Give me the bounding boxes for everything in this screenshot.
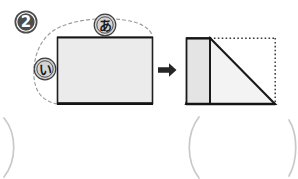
right-arrow-icon xyxy=(158,63,177,77)
label-a-marker: あ xyxy=(94,14,116,36)
right-arrow-shape xyxy=(158,63,177,77)
bracket-right-open xyxy=(189,117,199,178)
label-a-text: あ xyxy=(99,18,112,33)
source-rectangle xyxy=(57,37,153,103)
label-i-marker: い xyxy=(34,58,56,80)
answer-brackets xyxy=(4,117,296,178)
diagram-svg: 2 あ い xyxy=(0,0,298,179)
bracket-left-close xyxy=(4,118,14,177)
badge-number-label: 2 xyxy=(21,13,31,31)
label-i-text: い xyxy=(39,62,52,77)
worksheet-canvas: 2 あ い xyxy=(0,0,298,179)
source-rectangle-body xyxy=(58,38,153,104)
bracket-right-close xyxy=(289,120,296,176)
problem-number-badge: 2 xyxy=(15,11,38,34)
left-strip-body xyxy=(187,39,211,105)
